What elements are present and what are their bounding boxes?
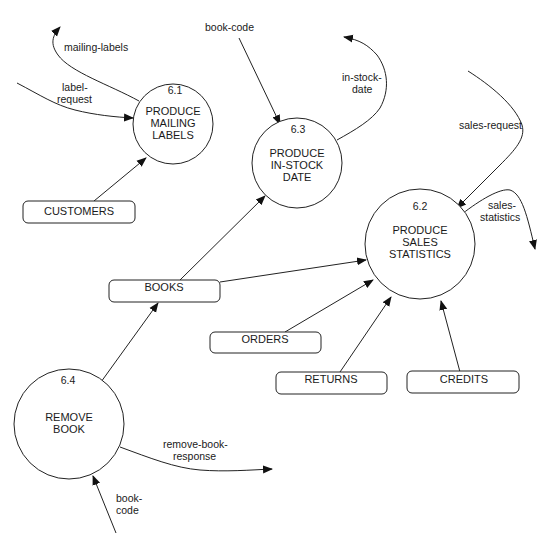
flow-label-in-stock-date: date	[352, 83, 373, 95]
process-number: 6.2	[413, 200, 428, 212]
flow-sales-request	[457, 71, 523, 208]
flow-label-label-request: request	[57, 93, 92, 105]
data-store-label: CUSTOMERS	[44, 205, 114, 217]
flow-label-sales-statistics: sales-	[488, 199, 517, 211]
data-flow-diagram: 6.1 PRODUCE MAILING LABELS 6.3 PRODUCE I…	[0, 0, 554, 547]
process-label-line: DATE	[283, 171, 312, 183]
process-label-line: MAILING	[150, 117, 195, 129]
process-number: 6.4	[61, 374, 76, 386]
flow-label-book-code: book-code	[205, 21, 254, 33]
flow-books-to-6-2	[220, 260, 366, 282]
data-store-label: ORDERS	[241, 333, 288, 345]
process-6-4: 6.4 REMOVE BOOK	[14, 369, 124, 479]
flow-book-code-to-6-3	[239, 38, 280, 124]
process-6-2: 6.2 PRODUCE SALES STATISTICS	[365, 189, 475, 299]
flow-label-in-stock-date: in-stock-	[342, 71, 382, 83]
process-number: 6.3	[291, 123, 306, 135]
flow-label-book-code-6-4: book-	[116, 492, 143, 504]
process-label-line: STATISTICS	[389, 248, 451, 260]
process-label-line: REMOVE	[45, 411, 93, 423]
data-store-label: BOOKS	[144, 281, 183, 293]
flow-books-to-6-3	[180, 196, 265, 280]
process-label-line: SALES	[402, 236, 437, 248]
flow-returns-to-6-2	[340, 297, 391, 372]
data-store-credits: CREDITS	[407, 371, 519, 393]
flow-label-mailing-labels: mailing-labels	[64, 41, 128, 53]
process-number: 6.1	[168, 84, 183, 96]
flow-book-code-to-6-4	[93, 476, 116, 533]
data-store-label: RETURNS	[304, 373, 357, 385]
flow-6-4-to-books	[101, 303, 158, 382]
flow-label-remove-book-response: response	[173, 450, 216, 462]
flow-label-book-code-6-4: code	[116, 504, 139, 516]
process-6-3: 6.3 PRODUCE IN-STOCK DATE	[252, 118, 342, 208]
flow-label-label-request: label-	[62, 81, 88, 93]
data-store-returns: RETURNS	[276, 372, 387, 394]
data-store-label: CREDITS	[440, 373, 488, 385]
process-label-line: PRODUCE	[269, 147, 324, 159]
flow-label-remove-book-response: remove-book-	[163, 438, 228, 450]
flow-orders-to-6-2	[285, 280, 373, 332]
process-label-line: BOOK	[53, 423, 85, 435]
flow-label-sales-statistics: statistics	[480, 211, 520, 223]
flow-credits-to-6-2	[441, 301, 460, 372]
flow-label-sales-request: sales-request	[459, 119, 522, 131]
flow-customers-to-6-1	[94, 158, 146, 201]
data-store-orders: ORDERS	[210, 332, 321, 353]
process-6-1: 6.1 PRODUCE MAILING LABELS	[133, 84, 213, 164]
data-store-books: BOOKS	[109, 280, 220, 302]
data-store-customers: CUSTOMERS	[23, 201, 135, 223]
process-label-line: LABELS	[152, 129, 194, 141]
process-label-line: PRODUCE	[145, 105, 200, 117]
process-label-line: PRODUCE	[392, 224, 447, 236]
process-label-line: IN-STOCK	[271, 159, 324, 171]
